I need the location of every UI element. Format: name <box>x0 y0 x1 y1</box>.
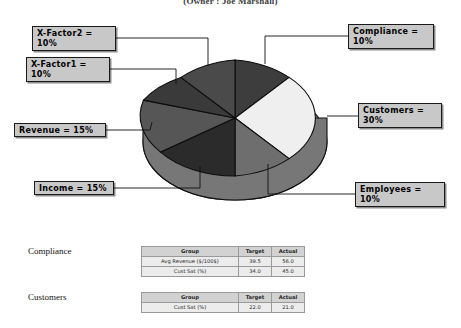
column-header-actual: Actual <box>272 247 305 257</box>
cell-target: 34.0 <box>239 267 272 277</box>
column-header-group: Group <box>142 247 239 257</box>
group-row-compliance: Compliance Group Target Actual Avg Reven… <box>0 246 305 277</box>
callout-compliance[interactable]: Compliance = 10% <box>348 24 434 49</box>
callout-employees-line2: 10% <box>360 195 441 205</box>
cell-actual: 21.0 <box>272 303 305 313</box>
leader-line-compliance <box>265 36 348 64</box>
callout-customers-line1: Customers = <box>363 106 438 116</box>
callout-customers[interactable]: Customers = 30% <box>358 103 442 128</box>
column-header-group: Group <box>142 293 239 303</box>
cell-metric: Cust Sat (%) <box>142 267 239 277</box>
callout-income-line1: Income = 15% <box>39 184 110 194</box>
group-label-compliance: Compliance <box>0 246 120 256</box>
column-header-target: Target <box>239 293 272 303</box>
cell-metric: Cust Sat (%) <box>142 303 239 313</box>
table-row: Cust Sat (%) 22.0 21.0 <box>142 303 305 313</box>
cell-target: 22.0 <box>239 303 272 313</box>
leader-line-xfactor1 <box>110 69 176 84</box>
table-header-row: Group Target Actual <box>142 247 305 257</box>
callout-customers-line2: 30% <box>363 116 438 126</box>
cell-target: 39.5 <box>239 257 272 267</box>
cell-metric: Avg Revenue ($/100$) <box>142 257 239 267</box>
table-header-row: Group Target Actual <box>142 293 305 303</box>
metrics-table-customers: Group Target Actual Cust Sat (%) 22.0 21… <box>141 292 305 313</box>
metrics-table-compliance: Group Target Actual Avg Revenue ($/100$)… <box>141 246 305 277</box>
callout-revenue[interactable]: Revenue = 15% <box>14 123 106 137</box>
table-row: Cust Sat (%) 34.0 45.0 <box>142 267 305 277</box>
callout-compliance-line2: 10% <box>353 37 430 47</box>
callout-xfactor1[interactable]: X-Factor1 = 10% <box>26 57 110 82</box>
table-row: Avg Revenue ($/100$) 39.5 56.0 <box>142 257 305 267</box>
leader-line-xfactor2 <box>116 38 208 66</box>
callout-xfactor2-line1: X-Factor2 = <box>37 29 112 39</box>
cell-actual: 56.0 <box>272 257 305 267</box>
callout-xfactor2[interactable]: X-Factor2 = 10% <box>32 26 116 51</box>
callout-xfactor1-line1: X-Factor1 = <box>31 60 106 70</box>
callout-employees[interactable]: Employees = 10% <box>355 182 445 207</box>
callout-income[interactable]: Income = 15% <box>34 181 114 195</box>
column-header-actual: Actual <box>272 293 305 303</box>
callout-compliance-line1: Compliance = <box>353 27 430 37</box>
callout-xfactor1-line2: 10% <box>31 70 106 80</box>
callout-employees-line1: Employees = <box>360 185 441 195</box>
cell-actual: 45.0 <box>272 267 305 277</box>
group-row-customers: Customers Group Target Actual Cust Sat (… <box>0 292 305 313</box>
group-label-customers: Customers <box>0 292 120 302</box>
callout-revenue-line1: Revenue = 15% <box>19 126 102 136</box>
column-header-target: Target <box>239 247 272 257</box>
callout-xfactor2-line2: 10% <box>37 39 112 49</box>
